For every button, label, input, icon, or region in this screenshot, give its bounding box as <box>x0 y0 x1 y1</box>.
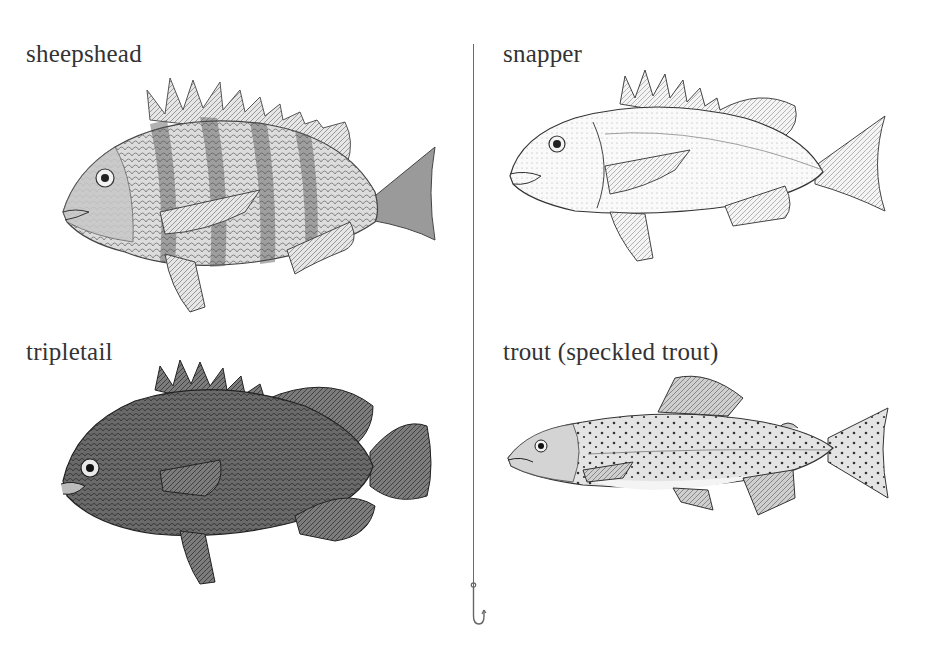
trout-illustration <box>503 370 893 525</box>
label-sheepshead: sheepshead <box>26 40 142 68</box>
sheepshead-illustration <box>55 72 445 317</box>
snapper-illustration <box>505 66 895 266</box>
label-snapper: snapper <box>503 40 582 68</box>
fishing-line-divider <box>473 44 474 588</box>
fishing-hook-icon <box>460 580 490 630</box>
label-trout: trout (speckled trout) <box>503 338 718 366</box>
tripletail-illustration <box>55 356 435 586</box>
